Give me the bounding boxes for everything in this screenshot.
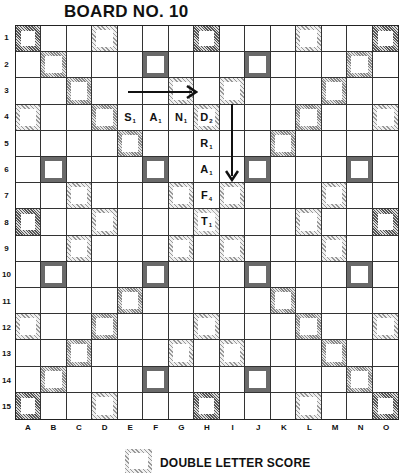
board-square-G4[interactable]: N1 [169, 105, 194, 131]
board-square-N4[interactable] [347, 105, 372, 131]
board-square-E2[interactable] [118, 52, 143, 78]
board-square-D11[interactable] [92, 288, 117, 314]
board-square-N15[interactable] [347, 393, 372, 419]
board-square-E11[interactable] [118, 288, 143, 314]
board-square-M14[interactable] [322, 367, 347, 393]
board-square-C3[interactable] [67, 78, 92, 104]
board-square-K11[interactable] [271, 288, 296, 314]
board-square-D14[interactable] [92, 367, 117, 393]
board-square-M4[interactable] [322, 105, 347, 131]
board-square-N3[interactable] [347, 78, 372, 104]
board-square-E12[interactable] [118, 314, 143, 340]
board-square-F8[interactable] [143, 209, 168, 235]
board-square-J1[interactable] [245, 26, 270, 52]
board-square-G11[interactable] [169, 288, 194, 314]
board-square-K3[interactable] [271, 78, 296, 104]
board-square-L5[interactable] [296, 131, 321, 157]
board-square-K13[interactable] [271, 340, 296, 366]
board-square-B6[interactable] [41, 157, 66, 183]
board-square-K15[interactable] [271, 393, 296, 419]
board-square-O7[interactable] [373, 183, 398, 209]
board-square-N14[interactable] [347, 367, 372, 393]
board-square-H10[interactable] [194, 262, 219, 288]
board-square-E9[interactable] [118, 236, 143, 262]
board-square-O10[interactable] [373, 262, 398, 288]
board-square-L11[interactable] [296, 288, 321, 314]
board-square-D3[interactable] [92, 78, 117, 104]
board-square-G7[interactable] [169, 183, 194, 209]
board-square-M11[interactable] [322, 288, 347, 314]
board-square-D10[interactable] [92, 262, 117, 288]
board-square-O6[interactable] [373, 157, 398, 183]
board-square-A11[interactable] [16, 288, 41, 314]
board-square-C9[interactable] [67, 236, 92, 262]
board-square-O3[interactable] [373, 78, 398, 104]
board-square-N1[interactable] [347, 26, 372, 52]
board-square-K9[interactable] [271, 236, 296, 262]
board-square-J11[interactable] [245, 288, 270, 314]
board-square-N7[interactable] [347, 183, 372, 209]
board-square-E14[interactable] [118, 367, 143, 393]
board-square-I11[interactable] [220, 288, 245, 314]
board-square-I9[interactable] [220, 236, 245, 262]
board-square-J13[interactable] [245, 340, 270, 366]
board-square-A5[interactable] [16, 131, 41, 157]
board-square-N6[interactable] [347, 157, 372, 183]
board-square-O8[interactable] [373, 209, 398, 235]
board-square-C2[interactable] [67, 52, 92, 78]
board-square-A10[interactable] [16, 262, 41, 288]
board-square-D7[interactable] [92, 183, 117, 209]
board-square-M9[interactable] [322, 236, 347, 262]
board-square-N12[interactable] [347, 314, 372, 340]
board-square-H8[interactable]: T1 [194, 209, 219, 235]
board-square-F7[interactable] [143, 183, 168, 209]
board-square-J3[interactable] [245, 78, 270, 104]
board-square-I10[interactable] [220, 262, 245, 288]
board-square-B7[interactable] [41, 183, 66, 209]
board-square-L2[interactable] [296, 52, 321, 78]
board-square-H9[interactable] [194, 236, 219, 262]
board-square-J15[interactable] [245, 393, 270, 419]
board-square-L10[interactable] [296, 262, 321, 288]
board-square-F14[interactable] [143, 367, 168, 393]
board-square-K7[interactable] [271, 183, 296, 209]
board-square-B12[interactable] [41, 314, 66, 340]
board-square-L8[interactable] [296, 209, 321, 235]
board-square-O2[interactable] [373, 52, 398, 78]
board-square-M8[interactable] [322, 209, 347, 235]
board-square-H2[interactable] [194, 52, 219, 78]
board-square-F10[interactable] [143, 262, 168, 288]
board-square-C8[interactable] [67, 209, 92, 235]
board-square-G6[interactable] [169, 157, 194, 183]
board-square-A14[interactable] [16, 367, 41, 393]
board-square-I14[interactable] [220, 367, 245, 393]
board-square-E7[interactable] [118, 183, 143, 209]
board-square-F4[interactable]: A1 [143, 105, 168, 131]
board-square-G15[interactable] [169, 393, 194, 419]
board-square-M3[interactable] [322, 78, 347, 104]
board-square-G8[interactable] [169, 209, 194, 235]
board-square-J9[interactable] [245, 236, 270, 262]
board-square-J5[interactable] [245, 131, 270, 157]
board-square-B11[interactable] [41, 288, 66, 314]
board-square-M15[interactable] [322, 393, 347, 419]
board-square-H12[interactable] [194, 314, 219, 340]
board-square-A6[interactable] [16, 157, 41, 183]
board-square-O11[interactable] [373, 288, 398, 314]
board-square-K5[interactable] [271, 131, 296, 157]
board-square-I15[interactable] [220, 393, 245, 419]
board-square-L4[interactable] [296, 105, 321, 131]
board-square-M13[interactable] [322, 340, 347, 366]
board-square-B5[interactable] [41, 131, 66, 157]
board-square-L12[interactable] [296, 314, 321, 340]
board-square-I13[interactable] [220, 340, 245, 366]
board-square-B1[interactable] [41, 26, 66, 52]
board-square-K14[interactable] [271, 367, 296, 393]
board-square-O9[interactable] [373, 236, 398, 262]
board-square-D5[interactable] [92, 131, 117, 157]
board-square-D6[interactable] [92, 157, 117, 183]
board-square-H1[interactable] [194, 26, 219, 52]
board-square-F2[interactable] [143, 52, 168, 78]
board-square-M1[interactable] [322, 26, 347, 52]
board-square-B10[interactable] [41, 262, 66, 288]
